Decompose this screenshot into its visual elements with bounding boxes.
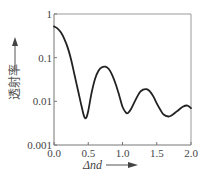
x-axis-label-group: Δnd [82,158,138,172]
up-arrow-icon [12,37,18,46]
y-axis-label-group: 透射率 [7,37,22,100]
transmittance-chart: 10.10.010.001 0.00.51.01.52.0 透射率 Δnd [0,0,206,177]
y-axis-label: 透射率 [7,64,22,100]
y-tick-label: 0.01 [33,95,52,107]
transmittance-curve [54,26,191,118]
y-tick-label: 1 [47,8,53,20]
plot-frame [54,14,191,145]
y-axis-ticks: 10.10.010.001 [27,8,57,151]
x-tick-label: 1.0 [116,147,130,159]
x-tick-label: 1.5 [150,147,164,159]
right-arrow-icon [128,162,138,168]
x-tick-label: 0.0 [47,147,61,159]
x-tick-label: 2.0 [184,147,198,159]
x-axis-label: Δnd [82,158,103,172]
y-tick-label: 0.1 [38,52,52,64]
